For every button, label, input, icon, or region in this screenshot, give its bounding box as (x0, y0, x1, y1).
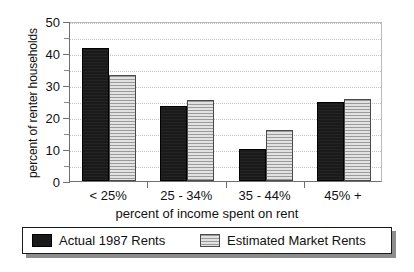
x-axis-category-label: 45% + (324, 188, 361, 203)
y-axis-tick (63, 54, 70, 55)
dark-solid-swatch (32, 234, 52, 247)
bar (109, 75, 136, 181)
gridline (70, 71, 381, 72)
legend: Actual 1987 RentsEstimated Market Rents (22, 227, 392, 254)
y-axis-minor-tick (64, 70, 69, 71)
bar (344, 99, 371, 181)
y-axis-minor-tick (64, 166, 69, 167)
bar (266, 130, 293, 181)
y-axis-tick (63, 150, 70, 151)
gridline (70, 23, 381, 24)
y-axis-tick (63, 86, 70, 87)
x-axis-tick (147, 182, 148, 188)
legend-label: Actual 1987 Rents (59, 233, 165, 248)
x-axis-category-label: 25 - 34% (160, 188, 212, 203)
legend-entry[interactable]: Actual 1987 Rents (32, 228, 165, 253)
y-axis-tick-label: 50 (20, 15, 60, 30)
y-axis-tick (63, 22, 70, 23)
legend-entry[interactable]: Estimated Market Rents (200, 228, 366, 253)
y-axis-minor-tick (64, 134, 69, 135)
light-hatched-swatch (200, 234, 220, 247)
x-axis-tick (226, 182, 227, 188)
y-axis-tick (63, 182, 70, 183)
bar (317, 102, 344, 181)
bar (160, 106, 187, 181)
x-axis-category-label: < 25% (90, 188, 127, 203)
x-axis-tick (304, 182, 305, 188)
legend-label: Estimated Market Rents (227, 233, 366, 248)
y-axis-minor-tick (64, 38, 69, 39)
x-axis-category-label: 35 - 44% (239, 188, 291, 203)
bar (187, 100, 214, 181)
bar (239, 149, 266, 181)
y-axis-tick-label: 30 (20, 79, 60, 94)
bar (82, 48, 109, 181)
y-axis-minor-tick (64, 102, 69, 103)
gridline (70, 39, 381, 40)
y-axis-tick-label: 40 (20, 47, 60, 62)
plot-area (69, 22, 382, 182)
y-axis-tick-label: 0 (20, 175, 60, 190)
bar-chart: percent of renter households 01020304050… (0, 0, 414, 272)
y-axis-tick (63, 118, 70, 119)
y-axis-tick-label: 20 (20, 111, 60, 126)
y-axis-tick-label: 10 (20, 143, 60, 158)
x-axis-title: percent of income spent on rent (0, 206, 414, 221)
gridline (70, 55, 381, 56)
